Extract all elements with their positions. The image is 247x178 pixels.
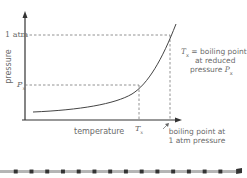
- decorative-dashed-bar: [0, 168, 243, 176]
- atm-bp-annotation-line1: boiling point at: [157, 127, 237, 136]
- px-tick-label: Px: [17, 80, 25, 93]
- atm-bp-annotation-line2: 1 atm pressure: [157, 136, 237, 145]
- vapor-pressure-curve: [33, 24, 176, 112]
- x-axis-arrow-icon: [175, 118, 182, 123]
- y-axis-label: pressure: [4, 49, 13, 84]
- y-axis-arrow-icon: [23, 11, 28, 18]
- reduced-bp-annotation-line3: pressure Px: [190, 65, 233, 78]
- x-axis-label: temperature: [74, 127, 124, 136]
- reduced-bp-annotation-line2: at reduced: [195, 56, 235, 65]
- atm-tick-label: 1 atm: [5, 30, 28, 39]
- vapor-pressure-diagram: 1 atm Px pressure temperature Tx Tx = bo…: [0, 0, 247, 178]
- tx-tick-label: Tx: [135, 124, 143, 137]
- diagram-graphics: [0, 0, 247, 178]
